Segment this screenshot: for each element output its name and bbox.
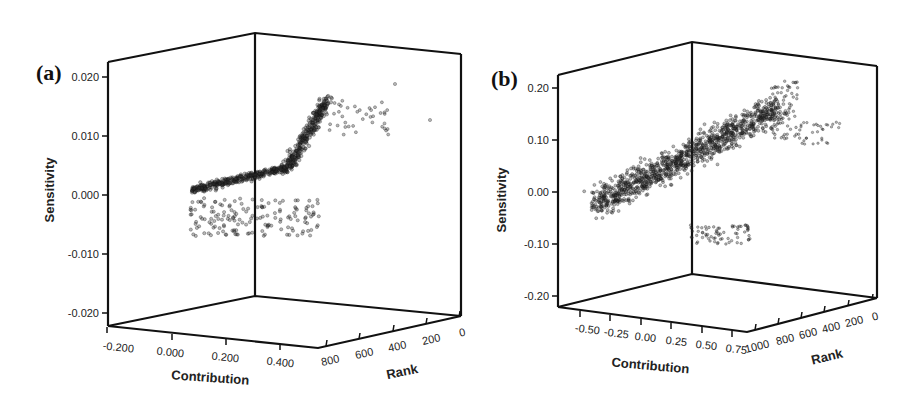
x-axis-label: Contribution [611,355,690,377]
y-tick: 400 [821,319,842,335]
panel-a: (a) 0.020 0.010 0.000 -0.010 -0.020 [36,33,466,388]
z-tick: 0.020 [71,71,99,83]
x-tick: 0.00 [634,330,657,345]
z-tick: 0.10 [528,134,549,146]
z-axis-label: Sensitivity [494,167,509,233]
panel-b: (b) 0.20 0.10 0.00 -0.10 -0.20 Sensitivi… [491,42,879,376]
figure-canvas: (a) 0.020 0.010 0.000 -0.010 -0.020 [0,0,923,403]
z-tick: -0.10 [524,238,549,250]
x-tick: -0.200 [102,339,134,354]
x-tick: -0.25 [603,326,629,341]
y-tick: 600 [798,325,819,341]
x-tick: 0.400 [266,355,295,370]
panel-a-y-axis: 800 600 400 200 0 Rank [320,311,466,382]
y-tick: 800 [320,352,340,368]
x-tick: -0.50 [574,322,600,337]
z-tick: 0.00 [528,186,549,198]
y-tick: 200 [844,313,865,329]
y-tick: 1000 [744,337,771,355]
z-tick: -0.20 [524,290,549,302]
panel-a-frame [108,33,461,348]
z-tick: -0.010 [68,248,99,260]
x-tick: 0.200 [211,350,240,365]
z-axis-label: Sensitivity [42,157,57,223]
y-tick: 0 [458,326,466,339]
x-tick: 0.000 [156,345,185,360]
y-axis-label: Rank [810,345,845,367]
y-tick: 600 [354,345,374,361]
z-tick: -0.020 [68,307,99,319]
panel-b-y-axis: 1000 800 600 400 200 0 Rank [744,294,880,368]
y-tick: 0 [871,310,880,323]
y-tick: 400 [387,338,407,354]
x-tick: 0.50 [695,338,718,353]
y-tick: 800 [775,331,796,347]
y-axis-label: Rank [385,361,420,382]
x-tick: 0.25 [665,334,688,349]
z-tick: 0.20 [528,82,549,94]
panel-b-label: (b) [491,66,518,91]
panel-b-scatter-points [583,80,841,245]
z-tick: 0.000 [71,189,99,201]
panel-a-label: (a) [36,60,62,85]
x-axis-label: Contribution [171,367,250,387]
panel-a-scatter-points [189,82,432,237]
z-tick: 0.010 [71,130,99,142]
panel-b-z-axis: 0.20 0.10 0.00 -0.10 -0.20 Sensitivity [494,82,558,302]
panel-a-z-axis: 0.020 0.010 0.000 -0.010 -0.020 Sensitiv… [42,71,108,319]
y-tick: 200 [421,331,441,347]
